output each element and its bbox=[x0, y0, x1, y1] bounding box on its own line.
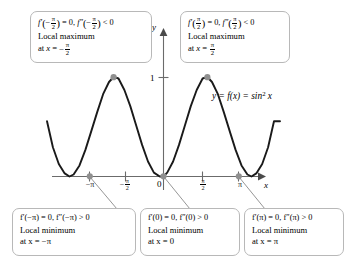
callout-classification: Local minimum bbox=[148, 225, 233, 236]
x-tick-label-minus-pi-half: −π2 bbox=[113, 178, 137, 192]
y-axis-label: y bbox=[152, 22, 156, 32]
fraction-pi-over-two: π2 bbox=[200, 178, 205, 192]
fraction-pi-over-two: π2 bbox=[232, 16, 237, 30]
callout-derivative-conditions: f′(π) = 0, f″(π) > 0 bbox=[252, 213, 337, 224]
callout-location: at x = π bbox=[252, 236, 337, 247]
callout-classification: Local maximum bbox=[188, 31, 283, 42]
callout-local-max-pi-half: f′(π2) = 0, f″(π2) < 0 Local maximum at … bbox=[180, 11, 290, 63]
callout-derivative-conditions: f′(−π2) = 0, f″(−π2) < 0 bbox=[38, 16, 145, 30]
x-axis-label: x bbox=[264, 180, 268, 190]
callout-derivative-conditions: f′(π2) = 0, f″(π2) < 0 bbox=[188, 16, 283, 30]
x-tick-label-pi-half: π2 bbox=[191, 178, 215, 192]
callout-location: at x = 0 bbox=[148, 236, 233, 247]
y-axis bbox=[160, 28, 168, 190]
function-label-exponent: 2 bbox=[262, 90, 265, 97]
callout-location: at x = −π bbox=[20, 236, 129, 247]
fraction-pi-over-two: π2 bbox=[210, 42, 215, 57]
callout-classification: Local minimum bbox=[20, 225, 129, 236]
callout-local-min-minus-pi: f′(−π) = 0, f″(−π) > 0 Local minimum at … bbox=[12, 208, 136, 256]
callout-local-min-zero: f′(0) = 0, f″(0) > 0 Local minimum at x … bbox=[140, 208, 240, 256]
callout-location: at x = −π2 bbox=[38, 42, 145, 57]
callout-derivative-conditions: f′(−π) = 0, f″(−π) > 0 bbox=[20, 213, 129, 224]
callout-local-min-pi: f′(π) = 0, f″(π) > 0 Local minimum at x … bbox=[244, 208, 344, 256]
function-label-text: y = f(x) = sin bbox=[212, 91, 262, 101]
callout-classification: Local maximum bbox=[38, 31, 145, 42]
x-tick-label-minus-pi: −π bbox=[78, 180, 102, 189]
y-tick-label-one: 1 bbox=[150, 73, 155, 83]
function-label-variable: x bbox=[268, 91, 272, 101]
x-tick-label-pi: π bbox=[228, 180, 252, 189]
minus-sign: − bbox=[120, 180, 125, 189]
callout-classification: Local minimum bbox=[252, 225, 337, 236]
callout-derivative-conditions: f′(0) = 0, f″(0) > 0 bbox=[148, 213, 233, 224]
fraction-pi-over-two: π2 bbox=[125, 178, 130, 192]
fraction-pi-over-two: π2 bbox=[92, 16, 97, 30]
location-prefix: at x = bbox=[188, 43, 207, 53]
location-prefix: at x = bbox=[38, 43, 57, 53]
fraction-pi-over-two: π2 bbox=[51, 16, 56, 30]
function-label: y = f(x) = sin2 x bbox=[212, 90, 272, 101]
fraction-pi-over-two: π2 bbox=[196, 16, 201, 30]
fraction-pi-over-two: π2 bbox=[65, 42, 70, 57]
callout-local-max-minus-pi-half: f′(−π2) = 0, f″(−π2) < 0 Local maximum a… bbox=[30, 11, 152, 63]
origin-label: 0 bbox=[157, 179, 162, 189]
callout-location: at x = π2 bbox=[188, 42, 283, 57]
